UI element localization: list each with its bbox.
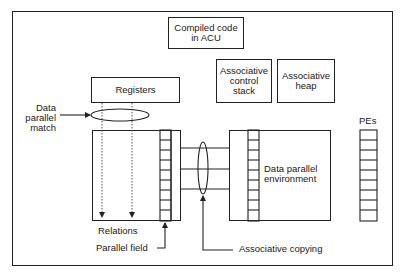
data-parallel-match-label: Data parallel match bbox=[28, 103, 56, 133]
compiled-code-box: Compiled code in ACU bbox=[168, 17, 244, 49]
dpm-line3: match bbox=[30, 123, 56, 133]
heap-line2: heap bbox=[295, 81, 316, 91]
acs-line3: stack bbox=[233, 86, 255, 96]
diagram-frame bbox=[12, 11, 393, 266]
parallel-field-label: Parallel field bbox=[96, 243, 148, 253]
registers-box: Registers bbox=[91, 77, 180, 103]
relations-label: Relations bbox=[98, 226, 138, 236]
associative-control-stack-box: Associative control stack bbox=[216, 59, 272, 103]
relations-box bbox=[92, 130, 181, 221]
data-parallel-environment-label: Data parallel environment bbox=[264, 164, 317, 184]
registers-label: Registers bbox=[115, 85, 155, 95]
associative-copying-label: Associative copying bbox=[239, 244, 322, 254]
associative-heap-box: Associative heap bbox=[277, 59, 335, 103]
pes-label: PEs bbox=[359, 116, 376, 126]
dpe-line2: environment bbox=[264, 174, 317, 184]
compiled-code-line2: in ACU bbox=[191, 33, 221, 43]
